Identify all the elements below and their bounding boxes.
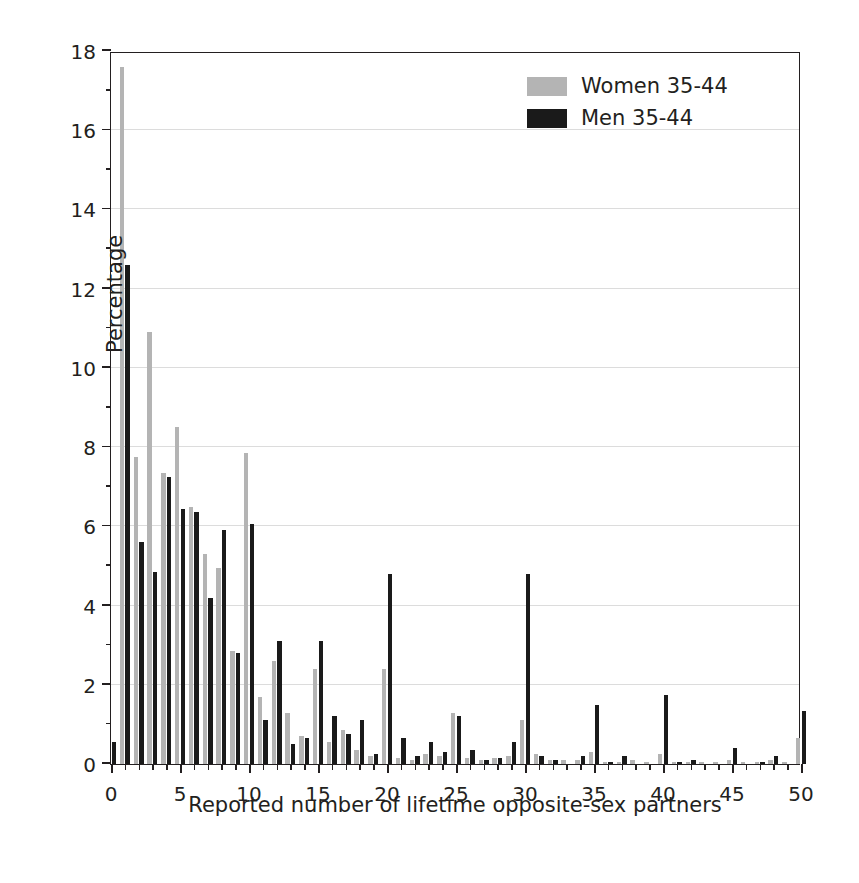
x-tick-major	[801, 764, 803, 773]
x-tick-major	[732, 764, 734, 773]
bar	[236, 653, 240, 764]
x-tick-major	[180, 764, 182, 773]
x-tick-minor	[511, 764, 513, 770]
y-tick-major	[102, 208, 111, 210]
x-tick-major	[456, 764, 458, 773]
y-tick-label: 0	[36, 755, 96, 775]
y-tick-label: 12	[36, 280, 96, 300]
y-tick-label: 18	[36, 42, 96, 62]
x-tick-major	[387, 764, 389, 773]
bar	[479, 760, 483, 764]
bar	[622, 756, 626, 764]
x-tick-major	[663, 764, 665, 773]
bar	[272, 661, 276, 764]
bar	[203, 554, 207, 764]
x-tick-minor	[566, 764, 568, 770]
y-tick-minor	[106, 723, 111, 725]
bar	[617, 762, 621, 764]
bar	[539, 756, 543, 764]
y-tick-major	[102, 366, 111, 368]
y-tick-major	[102, 525, 111, 527]
x-tick-minor	[359, 764, 361, 770]
bar	[189, 507, 193, 764]
bar	[134, 457, 138, 764]
x-tick-minor	[221, 764, 223, 770]
bar	[382, 669, 386, 764]
y-tick-minor	[106, 644, 111, 646]
legend-label: Men 35-44	[581, 106, 693, 130]
x-tick-minor	[415, 764, 417, 770]
x-axis-title: Reported number of lifetime opposite-sex…	[110, 793, 800, 817]
bar	[244, 453, 248, 764]
bar	[470, 750, 474, 764]
bar	[161, 473, 165, 764]
bar	[512, 742, 516, 764]
y-tick-label: 6	[36, 517, 96, 537]
x-tick-major	[111, 764, 113, 773]
bar	[443, 752, 447, 764]
bar	[319, 641, 323, 764]
x-tick-minor	[704, 764, 706, 770]
x-tick-minor	[773, 764, 775, 770]
bar	[457, 716, 461, 764]
y-tick-label: 16	[36, 121, 96, 141]
x-tick-major	[318, 764, 320, 773]
bar-series-layer	[111, 53, 799, 764]
x-tick-minor	[497, 764, 499, 770]
bar	[208, 598, 212, 764]
y-tick-major	[102, 446, 111, 448]
x-tick-minor	[139, 764, 141, 770]
y-tick-label: 10	[36, 359, 96, 379]
x-tick-minor	[649, 764, 651, 770]
bar	[258, 697, 262, 764]
x-tick-minor	[580, 764, 582, 770]
bar	[768, 760, 772, 764]
x-tick-minor	[277, 764, 279, 770]
bar	[112, 742, 116, 764]
bar	[561, 760, 565, 764]
x-tick-minor	[401, 764, 403, 770]
y-tick-minor	[106, 168, 111, 170]
x-tick-minor	[677, 764, 679, 770]
bar	[327, 742, 331, 764]
x-tick-major	[525, 764, 527, 773]
bar	[727, 760, 731, 764]
y-tick-minor	[106, 406, 111, 408]
bar	[175, 427, 179, 764]
x-tick-minor	[373, 764, 375, 770]
x-tick-minor	[787, 764, 789, 770]
bar	[153, 572, 157, 764]
x-tick-minor	[428, 764, 430, 770]
bar	[423, 754, 427, 764]
x-tick-minor	[746, 764, 748, 770]
chart-legend: Women 35-44Men 35-44	[527, 70, 728, 134]
bar	[672, 762, 676, 764]
chart-figure: 024681012141618 05101520253035404550 Per…	[0, 0, 859, 883]
bar	[658, 754, 662, 764]
bar	[589, 752, 593, 764]
bar	[410, 760, 414, 764]
x-tick-minor	[553, 764, 555, 770]
y-tick-major	[102, 683, 111, 685]
bar	[222, 530, 226, 764]
x-tick-minor	[470, 764, 472, 770]
bar	[368, 756, 372, 764]
y-axis-title: Percentage	[103, 235, 127, 353]
bar	[713, 762, 717, 764]
x-tick-minor	[208, 764, 210, 770]
bar	[506, 756, 510, 764]
bar	[782, 762, 786, 764]
bar	[733, 748, 737, 764]
bar	[299, 736, 303, 764]
bar	[603, 762, 607, 764]
bar	[520, 720, 524, 764]
bar	[699, 762, 703, 764]
x-tick-minor	[125, 764, 127, 770]
legend-item: Men 35-44	[527, 102, 728, 134]
bar	[595, 705, 599, 764]
x-tick-minor	[622, 764, 624, 770]
y-tick-minor	[106, 89, 111, 91]
x-tick-minor	[484, 764, 486, 770]
bar	[230, 651, 234, 764]
bar	[388, 574, 392, 764]
